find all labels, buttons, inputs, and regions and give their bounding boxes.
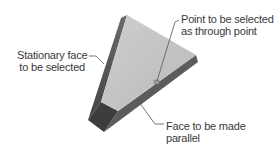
parallel-face-label-line2: parallel <box>166 132 246 144</box>
stationary-face-leader <box>89 56 104 64</box>
through-point-label: Point to be selected as through point <box>181 13 274 37</box>
parallel-face-label: Face to be made parallel <box>166 120 246 144</box>
stationary-face-label-line2: to be selected <box>17 61 87 73</box>
through-point-label-line1: Point to be selected <box>181 13 274 25</box>
parallel-face-label-line1: Face to be made <box>166 120 246 132</box>
through-point-marker <box>154 80 159 84</box>
stationary-face-label-line1: Stationary face <box>17 49 87 61</box>
parallel-face-leader <box>139 102 164 124</box>
through-point-label-line2: as through point <box>181 25 274 37</box>
stationary-face-label: Stationary face to be selected <box>17 49 87 73</box>
